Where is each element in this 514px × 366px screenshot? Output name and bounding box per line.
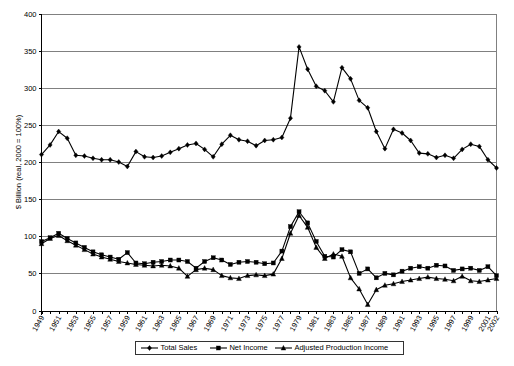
data-point-triangle bbox=[348, 275, 353, 280]
data-point-diamond bbox=[434, 155, 438, 160]
x-tick-label: 1975 bbox=[253, 314, 269, 333]
legend-label: Adjusted Production Income bbox=[294, 343, 388, 352]
x-tick-label: 1991 bbox=[391, 314, 407, 333]
series-adjusted-production-income bbox=[39, 213, 499, 307]
data-point-diamond bbox=[254, 143, 258, 148]
y-tick-label: 150 bbox=[24, 195, 37, 204]
x-tick-label: 1951 bbox=[47, 314, 63, 333]
data-point-square bbox=[340, 248, 344, 252]
x-tick-label: 1999 bbox=[459, 314, 475, 333]
data-point-square bbox=[168, 258, 172, 262]
data-point-square bbox=[211, 256, 215, 260]
x-tick-label: 1993 bbox=[408, 314, 424, 333]
x-tick-label: 1987 bbox=[356, 314, 372, 333]
data-point-square bbox=[417, 265, 421, 269]
data-point-square bbox=[237, 260, 241, 264]
x-tick-label: 1971 bbox=[219, 314, 235, 333]
data-point-square bbox=[263, 262, 267, 266]
data-point-square bbox=[443, 264, 447, 268]
data-point-square bbox=[469, 266, 473, 270]
data-point-square bbox=[177, 258, 181, 262]
x-tick-label: 1981 bbox=[305, 314, 321, 333]
x-tick-label: 1989 bbox=[373, 314, 389, 333]
data-point-square bbox=[349, 250, 353, 254]
data-point-triangle bbox=[460, 274, 465, 279]
data-point-diamond bbox=[82, 154, 86, 159]
data-point-square bbox=[486, 265, 490, 269]
data-point-diamond bbox=[142, 154, 146, 159]
x-tick-label: 1985 bbox=[339, 314, 355, 333]
data-point-square bbox=[220, 258, 224, 262]
x-axis-ticks: 1949195119531955195719591961196319651967… bbox=[30, 311, 501, 333]
data-point-square bbox=[246, 259, 250, 263]
legend-label: Net Income bbox=[229, 343, 267, 352]
data-point-triangle bbox=[425, 274, 430, 279]
y-tick-label: 100 bbox=[24, 232, 37, 241]
y-tick-label: 300 bbox=[24, 84, 37, 93]
data-point-square bbox=[383, 271, 387, 275]
series-net-income bbox=[40, 210, 499, 280]
y-tick-label: 50 bbox=[28, 269, 36, 278]
data-point-diamond bbox=[151, 155, 155, 160]
x-tick-label: 1995 bbox=[425, 314, 441, 333]
data-point-diamond bbox=[263, 138, 267, 143]
x-tick-label: 1997 bbox=[442, 314, 458, 333]
x-tick-label: 1983 bbox=[322, 314, 338, 333]
data-point-diamond bbox=[443, 153, 447, 158]
data-point-square bbox=[271, 261, 275, 265]
data-point-diamond bbox=[426, 151, 430, 156]
data-point-square bbox=[185, 259, 189, 263]
data-point-diamond bbox=[117, 160, 121, 165]
data-point-square bbox=[280, 249, 284, 253]
data-point-diamond bbox=[160, 154, 164, 159]
chart-container: 050100150200250300350400$ Billion (real,… bbox=[0, 0, 514, 366]
x-tick-label: 1967 bbox=[185, 314, 201, 333]
x-tick-label: 1953 bbox=[64, 314, 80, 333]
x-tick-label: 1965 bbox=[167, 314, 183, 333]
data-point-square bbox=[306, 221, 310, 225]
y-tick-label: 350 bbox=[24, 47, 37, 56]
data-point-diamond bbox=[288, 116, 292, 121]
data-point-diamond bbox=[168, 150, 172, 155]
x-tick-label: 1961 bbox=[133, 314, 149, 333]
data-point-square bbox=[288, 225, 292, 229]
x-tick-label: 1973 bbox=[236, 314, 252, 333]
series-line bbox=[42, 47, 497, 168]
data-point-square bbox=[391, 273, 395, 277]
data-point-square bbox=[125, 251, 129, 255]
x-tick-label: 1955 bbox=[82, 314, 98, 333]
x-tick-label: 1949 bbox=[30, 314, 46, 333]
data-point-square bbox=[452, 268, 456, 272]
data-point-square bbox=[409, 266, 413, 270]
data-point-diamond bbox=[469, 142, 473, 147]
series-total-sales bbox=[39, 44, 498, 170]
data-point-diamond bbox=[237, 137, 241, 142]
data-point-diamond bbox=[91, 156, 95, 161]
y-tick-label: 0 bbox=[32, 307, 36, 316]
data-point-diamond bbox=[177, 146, 181, 151]
x-tick-label: 1979 bbox=[288, 314, 304, 333]
data-point-diamond bbox=[245, 139, 249, 144]
y-axis-title: $ Billion (real, 2000 = 100%) bbox=[14, 114, 23, 209]
data-point-diamond bbox=[185, 142, 189, 147]
x-tick-label: 1977 bbox=[270, 314, 286, 333]
line-chart: 050100150200250300350400$ Billion (real,… bbox=[0, 0, 514, 366]
x-tick-label: 1957 bbox=[99, 314, 115, 333]
data-point-square bbox=[477, 268, 481, 272]
data-point-square bbox=[434, 263, 438, 267]
legend-label: Total Sales bbox=[161, 343, 198, 352]
data-point-diamond bbox=[99, 157, 103, 162]
data-point-square bbox=[357, 271, 361, 275]
data-point-diamond bbox=[194, 141, 198, 146]
x-tick-label: 1963 bbox=[150, 314, 166, 333]
data-point-square bbox=[366, 267, 370, 271]
data-point-square bbox=[203, 259, 207, 263]
x-tick-label: 1969 bbox=[202, 314, 218, 333]
data-point-triangle bbox=[279, 256, 284, 261]
data-point-square bbox=[426, 266, 430, 270]
x-tick-label: 1959 bbox=[116, 314, 132, 333]
data-point-diamond bbox=[271, 137, 275, 142]
data-point-diamond bbox=[280, 135, 284, 140]
y-tick-label: 200 bbox=[24, 158, 37, 167]
data-point-square bbox=[400, 269, 404, 273]
